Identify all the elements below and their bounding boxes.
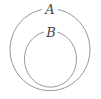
euler-diagram: A B bbox=[0, 0, 101, 99]
set-a-label: A bbox=[44, 2, 54, 17]
set-b-circle bbox=[25, 32, 77, 87]
set-a-circle bbox=[10, 10, 90, 91]
set-b-label: B bbox=[45, 25, 56, 40]
